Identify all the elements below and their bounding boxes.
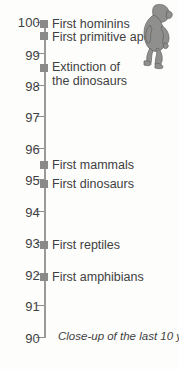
event-label: First reptiles <box>52 238 120 252</box>
event-label: Extinction of the dinosaurs <box>52 60 127 88</box>
axis-tick-label: 94 <box>25 205 40 220</box>
axis-tick-label: 100 <box>18 15 40 30</box>
event-label: First hominins <box>52 17 130 31</box>
event-label: First mammals <box>52 158 134 172</box>
event-label: First amphibians <box>52 270 144 284</box>
axis-tick-label: 93 <box>25 236 40 251</box>
walking-ape-icon <box>136 1 178 71</box>
event-marker <box>40 64 48 72</box>
event-label: First dinosaurs <box>52 177 134 191</box>
event-marker <box>40 180 48 188</box>
axis-tick-label: 95 <box>25 173 40 188</box>
axis-tick-label: 90 <box>25 331 40 346</box>
axis-tick-label: 91 <box>25 299 40 314</box>
axis-tick-label: 99 <box>25 48 40 63</box>
axis-tick-label: 92 <box>25 268 40 283</box>
axis-tick-label: 96 <box>25 142 40 157</box>
event-marker <box>40 241 48 249</box>
event-marker <box>40 161 48 169</box>
axis-tick-label: 98 <box>25 79 40 94</box>
event-marker <box>40 273 48 281</box>
chart-caption: Close-up of the last 10 yards <box>58 330 179 342</box>
event-marker <box>40 32 48 40</box>
timeline-chart: 10099989796959493929190 First homininsFi… <box>0 0 179 369</box>
axis-tick-label: 97 <box>25 110 40 125</box>
event-marker <box>40 20 48 28</box>
